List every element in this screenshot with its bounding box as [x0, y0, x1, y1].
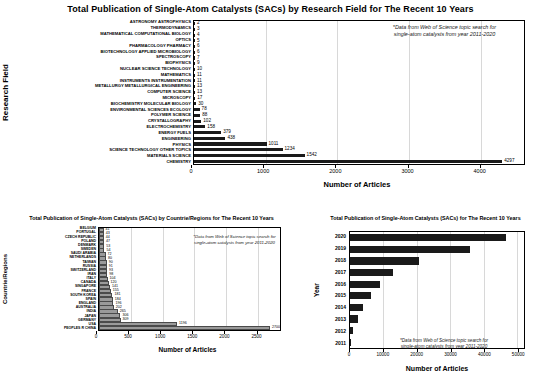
- bar-row: [350, 255, 524, 267]
- category-label: BIOCHEMISTRY MOLECULAR BIOLOGY: [11, 101, 191, 106]
- chart-research-field-plot-area: Research Field ASTRONOMY ASTROPHYSICSTHE…: [0, 20, 541, 165]
- bar: [194, 160, 502, 163]
- category-label: 2011: [322, 337, 346, 349]
- bar-row: 10: [194, 67, 524, 72]
- bar-value-label: 102: [203, 119, 211, 124]
- bar-row: 11: [194, 73, 524, 78]
- chart-research-field: Total Publication of Single-Atom Catalys…: [0, 0, 541, 205]
- chart-research-field-x-axis-label: Number of Articles: [191, 180, 523, 189]
- axis-tick-label: 2500: [251, 334, 261, 339]
- chart-by-year-annotation: *Data from Web of Science topic search f…: [374, 338, 514, 350]
- category-label: 2018: [322, 255, 346, 267]
- category-label: ENGINEERING: [11, 136, 191, 141]
- bar-row: 158: [194, 124, 524, 129]
- chart-by-year-category-labels: 2020201920182017201620152014201320122011: [322, 231, 349, 349]
- bar-row: 5: [194, 38, 524, 43]
- bar-row: [350, 325, 524, 337]
- category-label: MATERIALS SCIENCE: [11, 154, 191, 159]
- category-label: 2017: [322, 266, 346, 278]
- category-label: 2015: [322, 290, 346, 302]
- bar: [194, 137, 225, 140]
- category-label: MICROSCOPY: [11, 96, 191, 101]
- bar: [194, 68, 195, 71]
- bar: [350, 315, 358, 322]
- bar-row: 438: [194, 136, 524, 141]
- axis-tick-label: 4000: [474, 168, 486, 174]
- bar: [194, 62, 195, 65]
- axis-tick-label: 1000: [155, 334, 165, 339]
- bar-value-label: 11: [197, 73, 202, 78]
- bar: [350, 257, 419, 264]
- bar-row: 2700: [99, 326, 280, 330]
- axis-tick-label: 20000: [410, 352, 423, 357]
- category-label: OPTICS: [11, 37, 191, 42]
- bar: [194, 74, 195, 77]
- bar: [194, 91, 195, 94]
- category-label: MATHEMATICS: [11, 72, 191, 77]
- bar-value-label: 1234: [285, 147, 295, 152]
- bar: [194, 28, 195, 31]
- category-label: 2019: [322, 243, 346, 255]
- axis-tick-label: 2000: [329, 168, 341, 174]
- chart-countries-title: Total Publication of Single-Atom Catalys…: [0, 212, 303, 221]
- bar-row: [350, 290, 524, 302]
- category-label: NUCLEAR SCIENCE TECHNOLOGY: [11, 67, 191, 72]
- bar: [194, 51, 195, 54]
- bar: [350, 292, 371, 299]
- category-label: PHARMACOLOGY PHARMACY: [11, 43, 191, 48]
- chart-research-field-category-labels: ASTRONOMY ASTROPHYSICSTHERMODYNAMICSMATH…: [11, 20, 193, 165]
- bar-value-label: 13: [197, 90, 202, 95]
- bar-row: 6: [194, 44, 524, 49]
- bar-value-label: 2700: [272, 326, 280, 330]
- bar-row: 9: [194, 61, 524, 66]
- bar: [194, 142, 267, 145]
- bar-row: [350, 278, 524, 290]
- chart-by-year-plot-area: Year 20202019201820172016201520142013201…: [310, 231, 541, 349]
- bar: [350, 269, 393, 276]
- bar-row: 1542: [194, 153, 524, 158]
- chart-countries: Total Publication of Single-Atom Catalys…: [0, 212, 303, 391]
- axis-tick-label: 0: [95, 334, 98, 339]
- category-label: CHEMISTRY: [11, 160, 191, 165]
- bar: [194, 39, 195, 42]
- axis-tick-label: 50000: [512, 352, 525, 357]
- bar: [194, 79, 195, 82]
- chart-countries-x-axis-label: Number of Articles: [96, 346, 279, 353]
- axis-tick-label: 0: [189, 168, 192, 174]
- bar: [194, 108, 200, 111]
- bar: [194, 56, 195, 59]
- bar: [350, 327, 353, 334]
- chart-by-year-bars: [350, 232, 524, 348]
- chart-by-year-y-axis-label: Year: [310, 231, 322, 349]
- axis-tick-label: 500: [124, 334, 132, 339]
- bar-value-label: 158: [207, 125, 215, 130]
- chart-countries-y-axis-label: Countrie/Regions: [0, 227, 10, 331]
- bar-row: [350, 313, 524, 325]
- category-label: MATHEMATICAL COMPUTATIONAL BIOLOGY: [11, 32, 191, 37]
- chart-research-field-plot: 2345667910111113131730788810215837943810…: [193, 20, 525, 165]
- category-label: PEOPLES R CHINA: [10, 327, 96, 331]
- bar: [194, 97, 195, 100]
- bar: [194, 131, 221, 134]
- bar-value-label: 6: [197, 50, 200, 55]
- category-label: 2016: [322, 278, 346, 290]
- chart-by-year: Total Publication of Single-Atom Catalys…: [310, 212, 541, 391]
- bar: [350, 246, 470, 253]
- bar-row: 11: [194, 78, 524, 83]
- bar: [194, 148, 283, 151]
- axis-tick-label: 10000: [376, 352, 389, 357]
- bar: [194, 22, 195, 25]
- bar: [194, 114, 200, 117]
- axis-tick-label: 40000: [478, 352, 491, 357]
- bar: [194, 85, 195, 88]
- axis-tick-label: 30000: [444, 352, 457, 357]
- bar: [194, 102, 196, 105]
- chart-countries-category-labels: BELGIUMPORTUGALCZECH REPUBLICPOLANDDENMA…: [10, 227, 98, 331]
- chart-countries-x-axis: 05001000150020002500: [96, 331, 279, 345]
- axis-tick-label: 2000: [219, 334, 229, 339]
- bar-row: 1234: [194, 147, 524, 152]
- bar: [350, 304, 363, 311]
- bar-value-label: 4297: [504, 159, 514, 164]
- chart-by-year-x-axis: 01000020000300004000050000: [349, 349, 525, 363]
- bar: [194, 125, 205, 128]
